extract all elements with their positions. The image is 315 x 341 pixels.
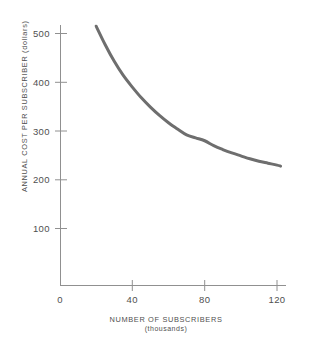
data-series-line (96, 26, 280, 166)
x-axis-subtitle: (thousands) (145, 325, 187, 333)
y-tick-label-200: 200 (33, 174, 50, 185)
y-axis-title: ANNUAL COST PER SUBSCRIBER (dollars) (20, 20, 29, 192)
y-tick-label-300: 300 (33, 126, 50, 137)
x-tick-label-80: 80 (199, 294, 210, 305)
y-tick-label-400: 400 (33, 77, 50, 88)
y-tick-label-500: 500 (33, 28, 50, 39)
y-tick-label-100: 100 (33, 223, 50, 234)
chart-plot-area: 500 400 300 200 100 0 40 80 120 ANNUAL C… (0, 0, 315, 341)
x-tick-label-0: 0 (57, 294, 63, 305)
x-axis-title: NUMBER OF SUBSCRIBERS (109, 315, 222, 324)
chart-figure: 500 400 300 200 100 0 40 80 120 ANNUAL C… (0, 0, 315, 341)
x-tick-label-40: 40 (127, 294, 138, 305)
x-tick-label-120: 120 (268, 294, 285, 305)
